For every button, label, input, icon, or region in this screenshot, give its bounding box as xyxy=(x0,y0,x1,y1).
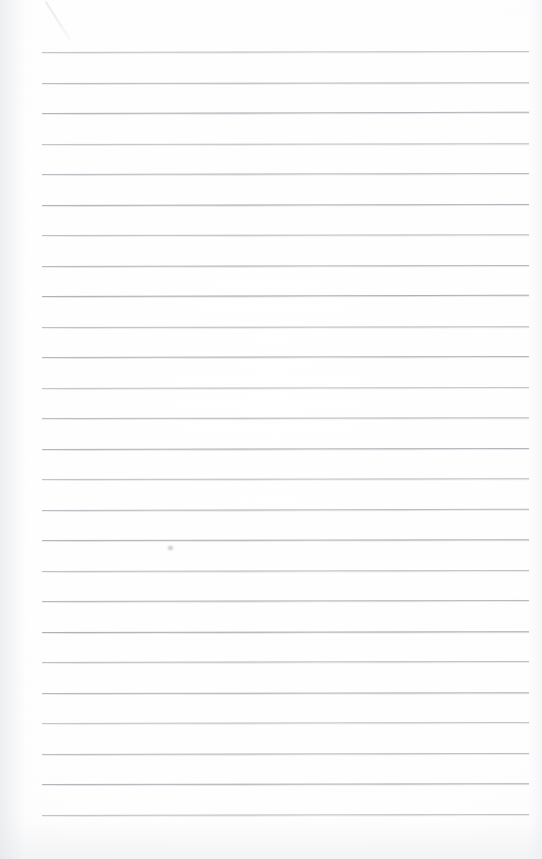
rule-line xyxy=(42,539,529,541)
rule-line xyxy=(42,813,529,815)
rule-line xyxy=(42,508,529,510)
rule-line xyxy=(42,570,529,572)
rule-line xyxy=(42,143,529,145)
rule-line xyxy=(42,264,529,266)
rule-line xyxy=(42,356,529,358)
rule-line xyxy=(42,203,529,205)
rule-line xyxy=(42,692,529,694)
rule-line xyxy=(42,386,529,388)
rule-line xyxy=(42,661,529,663)
rule-line xyxy=(42,112,529,114)
rule-line xyxy=(42,326,529,328)
rule-line xyxy=(42,752,529,754)
rule-line xyxy=(42,417,529,419)
rule-line xyxy=(42,51,529,53)
ruled-lines-group xyxy=(0,0,542,859)
rule-line xyxy=(42,447,529,449)
smudge-speck xyxy=(168,546,173,550)
rule-line xyxy=(42,82,529,84)
rule-line xyxy=(42,783,529,785)
rule-line xyxy=(42,234,529,236)
rule-line xyxy=(42,722,529,724)
rule-line xyxy=(42,173,529,175)
rule-line xyxy=(42,478,529,480)
rule-line xyxy=(42,600,529,602)
rule-line xyxy=(42,631,529,633)
scanned-page: Blank ruled notebook page xyxy=(0,0,542,859)
rule-line xyxy=(42,295,529,297)
